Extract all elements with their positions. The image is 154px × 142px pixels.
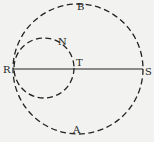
label-n: N bbox=[58, 36, 67, 47]
label-t: T bbox=[76, 57, 83, 68]
label-r: R bbox=[3, 64, 11, 75]
label-s: S bbox=[145, 66, 152, 77]
label-a: A bbox=[72, 124, 81, 135]
label-b: B bbox=[77, 1, 84, 12]
small-circle bbox=[14, 38, 74, 98]
diagram: R S T N B A bbox=[0, 0, 154, 142]
